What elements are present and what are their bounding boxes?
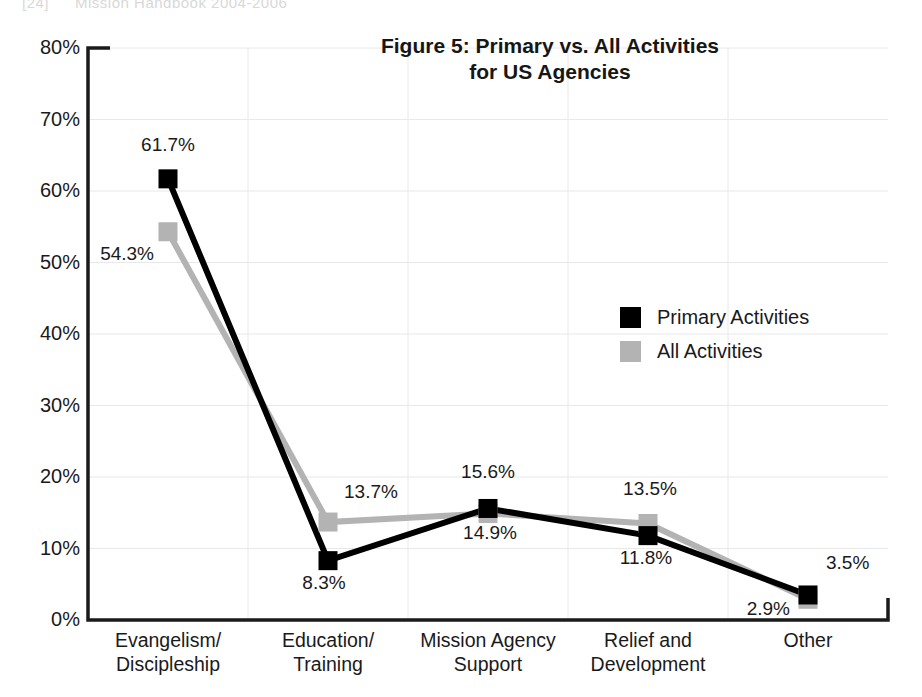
x-label-line-2: Discipleship — [88, 652, 248, 676]
legend-label-primary: Primary Activities — [657, 307, 809, 327]
x-label-line-1: Evangelism/ — [88, 628, 248, 652]
x-label-line-2: Training — [248, 652, 408, 676]
y-axis-tick-label: 30% — [6, 395, 80, 415]
chart-title-line-2: for US Agencies — [300, 59, 800, 85]
data-point-value-label: 8.3% — [302, 573, 345, 593]
y-axis-tick-label: 80% — [6, 37, 80, 57]
legend-swatch-primary-icon — [620, 307, 641, 328]
chart-title: Figure 5: Primary vs. All Activities for… — [300, 33, 800, 85]
y-axis-tick-label: 60% — [6, 180, 80, 200]
x-axis-category-label: Evangelism/Discipleship — [88, 628, 248, 676]
data-point-value-label: 3.5% — [826, 553, 869, 573]
chart-legend: Primary Activities All Activities — [620, 300, 809, 368]
x-axis-category-label: Other — [728, 628, 888, 652]
x-label-line-1: Relief and — [568, 628, 728, 652]
data-point-value-label: 11.8% — [620, 548, 672, 568]
legend-item-all-activities[interactable]: All Activities — [620, 334, 809, 368]
data-point-value-label: 54.3% — [100, 244, 154, 264]
y-axis-tick-label: 50% — [6, 252, 80, 272]
data-point-value-label: 15.6% — [461, 462, 515, 482]
legend-label-all: All Activities — [657, 341, 763, 361]
data-point-value-label: 2.9% — [747, 599, 790, 619]
x-label-line-2: Development — [568, 652, 728, 676]
chart-title-line-1: Figure 5: Primary vs. All Activities — [300, 33, 800, 59]
x-axis-category-label: Relief andDevelopment — [568, 628, 728, 676]
legend-swatch-all-icon — [620, 341, 641, 362]
figure-5-chart: Figure 5: Primary vs. All Activities for… — [0, 0, 922, 697]
y-axis-tick-label: 20% — [6, 466, 80, 486]
x-axis-category-label: Education/Training — [248, 628, 408, 676]
data-point-value-label: 13.5% — [623, 479, 677, 499]
x-label-line-1: Other — [728, 628, 888, 652]
data-point-value-label: 61.7% — [141, 135, 195, 155]
x-axis-category-label: Mission AgencySupport — [408, 628, 568, 676]
data-point-value-label: 13.7% — [344, 482, 398, 502]
x-label-line-1: Education/ — [248, 628, 408, 652]
x-label-line-1: Mission Agency — [408, 628, 568, 652]
y-axis-tick-label: 40% — [6, 323, 80, 343]
data-point-value-label: 14.9% — [463, 523, 517, 543]
y-axis-tick-label: 0% — [6, 609, 80, 629]
y-axis-tick-label: 70% — [6, 109, 80, 129]
x-label-line-2: Support — [408, 652, 568, 676]
y-axis-tick-label: 10% — [6, 538, 80, 558]
legend-item-primary-activities[interactable]: Primary Activities — [620, 300, 809, 334]
